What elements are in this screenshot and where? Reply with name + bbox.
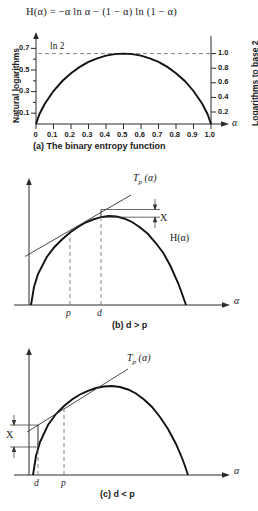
equation-title: H(α) = −α ln α − (1 − α) ln (1 − α) (26, 6, 177, 17)
panel-a-caption: (a) The binary entropy function (33, 141, 166, 151)
panel-a-left-tick-0: 0.1 (19, 108, 29, 117)
panel-a-x-tick-5: 0.5 (117, 130, 127, 139)
panel-a-ln2-label: ln 2 (50, 41, 65, 51)
panel-b-mark-d: d (97, 308, 102, 318)
panel-a-right-ticks (211, 54, 216, 112)
panel-a-left-tick-2: 0.5 (19, 65, 29, 74)
panel-a-right-tick-3: 0.8 (218, 63, 228, 72)
panel-c-gap-label: X (6, 429, 13, 440)
panel-a-x-tick-1: 0.1 (47, 130, 57, 139)
panel-b-x-axis-label: α (234, 295, 239, 306)
panel-a-y-arrow (33, 32, 39, 39)
panel-a-right-tick-0: 0.2 (218, 107, 228, 116)
panel-a-right-tick-1: 0.4 (218, 92, 228, 101)
panel-a-x-tick-2: 0.2 (65, 130, 75, 139)
panel-a-x-arrow (221, 121, 229, 127)
panel-c-plot (0, 325, 258, 490)
panel-c-tangent-label: Tp (α) (127, 352, 150, 366)
panel-a-right-tick-4: 1.0 (218, 48, 228, 57)
panel-b-x-arrow (222, 302, 230, 308)
panel-b-gap-label: X (160, 212, 167, 223)
panel-a-x-tick-9: 0.9 (187, 130, 197, 139)
panel-a-right-axis-label: Logarithms to base 2 (250, 41, 258, 127)
panel-a-x-tick-0: 0 (34, 130, 38, 139)
panel-a-left-tick-1: 0.3 (19, 86, 29, 95)
panel-a-x-tick-6: 0.6 (135, 130, 145, 139)
panel-c-tangent-line (27, 369, 128, 432)
panel-a-x-tick-4: 0.4 (100, 130, 110, 139)
panel-b-y-arrow (26, 178, 32, 185)
panel-a-entropy-curve (36, 54, 211, 124)
panel-c-y-arrow (26, 348, 32, 355)
panel-c-mark-p: p (61, 478, 66, 488)
panel-c-mark-d: d (34, 478, 39, 488)
panel-b-curve-label: H(α) (170, 232, 189, 243)
panel-a-x-tick-7: 0.7 (152, 130, 162, 139)
panel-a-x-tick-8: 0.8 (170, 130, 180, 139)
panel-a-right-tick-2: 0.6 (218, 77, 228, 86)
panel-c-x-axis-label: α (234, 465, 239, 476)
panel-a-left-tick-3: 0.7 (19, 43, 29, 52)
panel-a-x-ticks (36, 124, 211, 129)
panel-a-left-ticks (31, 48, 36, 113)
panel-b-mark-p: p (66, 308, 71, 318)
panel-a-x-tick-10: 1.0 (205, 130, 215, 139)
figure-binary-entropy: H(α) = −α ln α − (1 − α) ln (1 − α) (0, 0, 258, 511)
panel-b-plot (0, 155, 258, 320)
panel-b-tangent-label: Tp (α) (133, 172, 156, 186)
panel-b-entropy-curve (31, 216, 186, 305)
panel-c-x-arrow (222, 472, 230, 478)
panel-b-tangent-line (25, 195, 131, 257)
panel-a-x-axis-label: α (232, 117, 237, 128)
panel-c-entropy-curve (33, 386, 188, 475)
panel-c-caption: (c) d < p (100, 489, 135, 499)
panel-a-x-tick-3: 0.3 (82, 130, 92, 139)
